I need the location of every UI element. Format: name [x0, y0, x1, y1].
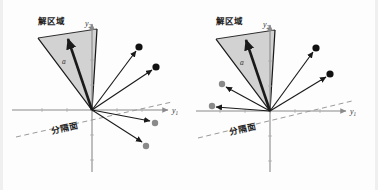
- sample-dot-1: [135, 43, 142, 50]
- axis-y1-label: y1: [171, 106, 179, 116]
- sample-vector-2: [92, 70, 152, 110]
- panel-normalized-samples: 解区域 分隔面 a y1 y2: [196, 16, 357, 172]
- axis-y1-label: y1: [349, 107, 357, 117]
- sample-dot-4: [143, 143, 149, 149]
- sample-vector-1: [270, 52, 313, 111]
- sample-vector-1: [92, 51, 136, 110]
- separating-plane-line: [198, 101, 352, 138]
- sample-dot-4: [209, 103, 215, 109]
- sample-dot-1: [312, 44, 319, 51]
- sample-dot-2: [152, 63, 159, 70]
- sample-dot-3: [152, 120, 158, 126]
- sample-vectors: [92, 51, 152, 142]
- sample-dots: [135, 43, 159, 149]
- solution-region-label: 解区域: [38, 16, 65, 26]
- axis-y2-label: y2: [84, 19, 92, 29]
- figure-canvas: 解区域 分隔面 a y1 y2: [0, 0, 378, 190]
- sample-vector-4: [216, 107, 270, 111]
- sample-vector-2: [270, 77, 326, 111]
- separating-plane-label: 分隔面: [228, 121, 257, 137]
- figure-root: 解区域 分隔面 a y1 y2: [0, 0, 378, 190]
- panel-original-samples: 解区域 分隔面 a y1 y2: [12, 16, 179, 172]
- weight-vector-label: a: [62, 57, 66, 66]
- axis-y2-label: y2: [262, 20, 270, 30]
- weight-vector-label: a: [240, 58, 244, 67]
- solution-region-label: 解区域: [216, 16, 243, 26]
- sample-dot-2: [326, 70, 333, 77]
- sample-dot-3: [219, 81, 225, 87]
- separating-plane-label: 分隔面: [50, 120, 79, 136]
